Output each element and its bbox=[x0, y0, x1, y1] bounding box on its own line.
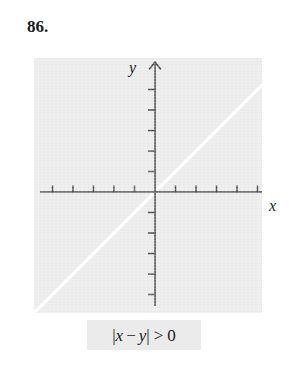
greater-than-operator: > bbox=[154, 326, 164, 345]
coordinate-plane bbox=[34, 58, 262, 313]
y-axis-label: y bbox=[129, 60, 136, 76]
minus-operator: − bbox=[126, 326, 136, 345]
graph-panel bbox=[34, 58, 262, 313]
formula-text: |x−y|>0 bbox=[112, 327, 176, 344]
problem-number: 86. bbox=[27, 18, 48, 35]
x-axis-label: x bbox=[269, 198, 276, 214]
y-axis bbox=[150, 62, 161, 306]
formula-caption-box: |x−y|>0 bbox=[87, 320, 201, 350]
exercise-figure: 86. bbox=[0, 0, 289, 385]
value-zero: 0 bbox=[167, 326, 176, 345]
abs-bar-close: | bbox=[146, 326, 149, 345]
variable-x: x bbox=[116, 326, 124, 345]
